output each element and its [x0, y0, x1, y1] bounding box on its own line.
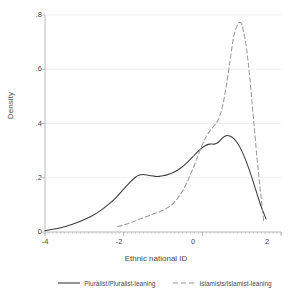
- legend-entry-pluralist: Pluralist/Pluralist-leaning: [58, 280, 155, 287]
- solid-line-swatch: [58, 280, 80, 286]
- y-tick-marks: [42, 15, 46, 232]
- legend-label: Islamists/Islamist-leaning: [199, 280, 271, 287]
- legend: Pluralist/Pluralist-leaning Islamists/Is…: [45, 275, 285, 291]
- density-plot-figure: Density .8 .6 .4 .2 0 -4 -2 0 2 Ethnic n…: [0, 0, 293, 295]
- plot-area: [0, 0, 293, 295]
- legend-label: Pluralist/Pluralist-leaning: [84, 280, 155, 287]
- dashed-line-swatch: [173, 280, 195, 286]
- series-line-islamist: [118, 22, 264, 226]
- x-minor-tick-marks: [45, 232, 281, 234]
- gridlines: [45, 15, 281, 178]
- series-line-pluralist: [45, 135, 266, 230]
- legend-entry-islamist: Islamists/Islamist-leaning: [173, 280, 271, 287]
